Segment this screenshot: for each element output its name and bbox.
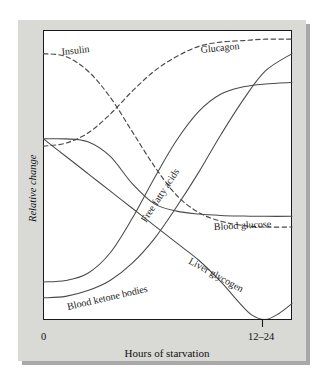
y-axis-title: Relative change xyxy=(27,154,38,223)
curve-label-blood-glucose: Blood glucose xyxy=(214,218,273,232)
curve-label-insulin: Insulin xyxy=(61,43,90,57)
curve-label-blood-ketone-bodies: Blood ketone bodies xyxy=(66,283,149,312)
figure-container: Insulin Glucagon Free fatty acids Blood … xyxy=(0,0,322,384)
x-tick-label-left: 0 xyxy=(41,331,46,342)
x-axis-title: Hours of starvation xyxy=(125,347,210,359)
plot-svg: Insulin Glucagon Free fatty acids Blood … xyxy=(0,0,322,384)
curve-glucagon xyxy=(44,39,293,146)
curve-label-liver-glycogen: Liver glycogen xyxy=(187,255,246,294)
x-tick-label-right: 12–24 xyxy=(248,331,275,342)
curve-label-glucagon: Glucagon xyxy=(200,40,240,55)
